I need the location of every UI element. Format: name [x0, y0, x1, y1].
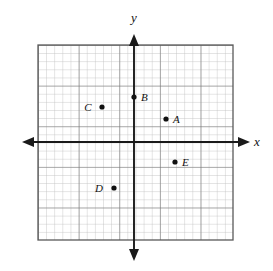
point-c-dot	[99, 104, 104, 109]
point-e-dot	[172, 159, 177, 164]
x-axis-label: x	[253, 134, 260, 149]
point-a-dot	[163, 116, 168, 121]
x-axis-left-arrow-icon	[22, 137, 34, 147]
y-axis-label: y	[129, 10, 137, 25]
coordinate-plane-figure: x y A B C D E	[0, 0, 273, 271]
point-c-label: C	[84, 101, 92, 113]
point-b-label: B	[141, 91, 148, 103]
y-axis-top-arrow-icon	[129, 34, 139, 46]
y-axis-bottom-arrow-icon	[129, 249, 139, 261]
coordinate-plane-svg: x y A B C D E	[0, 0, 273, 271]
point-d-dot	[111, 185, 116, 190]
point-d-label: D	[94, 182, 103, 194]
point-e-label: E	[181, 156, 189, 168]
point-a-label: A	[172, 113, 180, 125]
x-axis-right-arrow-icon	[238, 137, 250, 147]
point-b-dot	[131, 94, 136, 99]
